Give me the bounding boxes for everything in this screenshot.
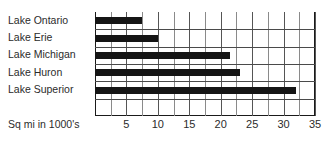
x-axis-caption: Sq mi in 1000's <box>8 118 79 131</box>
category-label: Lake Superior <box>0 84 82 95</box>
row-separator <box>95 99 315 100</box>
bar <box>95 35 158 42</box>
bar <box>95 52 230 59</box>
x-tick-label: 10 <box>152 118 164 131</box>
category-label: Lake Huron <box>0 67 82 78</box>
row-separator <box>95 29 315 30</box>
x-tick-label: 5 <box>123 118 129 131</box>
bar <box>95 87 296 94</box>
x-axis-tick-labels: 5101520253035 <box>95 118 315 138</box>
bar <box>95 17 142 24</box>
row-separator <box>95 47 315 48</box>
x-tick-label: 25 <box>246 118 258 131</box>
bar <box>95 69 240 76</box>
category-label: Lake Michigan <box>0 49 82 60</box>
bar-chart: Lake OntarioLake ErieLake MichiganLake H… <box>0 0 333 150</box>
category-label: Lake Erie <box>0 32 82 43</box>
category-axis-labels: Lake OntarioLake ErieLake MichiganLake H… <box>0 12 88 112</box>
row-separator <box>95 81 315 82</box>
x-tick-label: 30 <box>277 118 289 131</box>
gridline-major <box>315 12 316 116</box>
x-tick-label: 15 <box>183 118 195 131</box>
category-label: Lake Ontario <box>0 15 82 26</box>
x-tick-label: 20 <box>215 118 227 131</box>
row-separator <box>95 64 315 65</box>
x-tick-label: 35 <box>309 118 321 131</box>
plot-area <box>95 12 315 116</box>
